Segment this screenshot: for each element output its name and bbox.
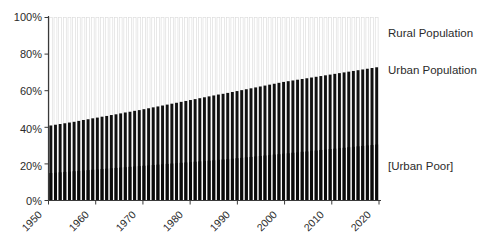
bar-urban-poor — [208, 161, 211, 201]
bar-urban-poor — [198, 161, 201, 200]
bar-urban-poor — [324, 150, 327, 201]
bar-urban-poor — [101, 169, 104, 200]
bar-urban-poor — [180, 163, 183, 201]
bar-urban-poor — [82, 170, 85, 200]
bar-urban-poor — [254, 156, 257, 200]
bar-urban-poor — [319, 150, 322, 201]
bar-urban-poor — [371, 145, 374, 200]
bar-urban-poor — [273, 155, 276, 201]
bar-urban-poor — [77, 171, 80, 201]
bar-urban-poor — [115, 168, 118, 201]
bar-urban-poor — [301, 152, 304, 201]
bar-urban-poor — [226, 159, 229, 200]
bar-urban-poor — [59, 172, 62, 200]
bar-urban-poor — [240, 158, 243, 201]
bar-urban-poor — [175, 163, 178, 200]
bar-urban-poor — [124, 167, 127, 200]
bar-urban-poor — [203, 161, 206, 201]
bar-urban-poor — [87, 170, 90, 200]
bar-urban-poor — [142, 166, 145, 201]
bar-urban-poor — [170, 164, 173, 201]
bar-urban-poor — [333, 149, 336, 201]
bar-urban-poor — [343, 148, 346, 201]
bar-urban-poor — [156, 165, 159, 201]
bar-urban-poor — [110, 168, 113, 200]
bar-urban-poor — [250, 157, 253, 201]
bar-urban-poor — [68, 172, 71, 201]
bar-urban-poor — [73, 171, 76, 200]
bar-urban-poor — [119, 168, 122, 201]
bar-urban-poor — [245, 157, 248, 200]
bar-urban-poor — [129, 167, 132, 201]
bar-urban-poor — [366, 145, 369, 200]
bar-urban-poor — [231, 159, 234, 201]
bar-urban-poor — [96, 169, 99, 200]
bar-urban-poor — [291, 153, 294, 201]
bar-urban-poor — [236, 158, 239, 200]
chart-figure: 100% 80% 60% 40% 20% 0% 1950 1960 1970 1… — [0, 0, 497, 248]
bar-urban-poor — [315, 151, 318, 201]
bar-urban-poor — [217, 160, 220, 201]
bar-urban-poor — [222, 160, 225, 201]
bar-urban-poor — [375, 145, 378, 201]
bar-urban-poor — [361, 146, 364, 201]
bar-urban-poor — [212, 160, 215, 200]
bar-urban-poor — [282, 154, 285, 201]
bar-urban-poor — [264, 155, 267, 200]
bar-urban-poor — [338, 148, 341, 200]
bar-urban-poor — [277, 154, 280, 200]
bar-urban-poor — [259, 156, 262, 200]
bar-urban-poor — [268, 155, 271, 200]
legend-label-urban-poor: [Urban Poor] — [388, 161, 453, 173]
bar-urban-poor — [152, 165, 155, 201]
bar-urban-poor — [63, 172, 66, 201]
bar-urban-poor — [189, 162, 192, 200]
bar-urban-poor — [147, 165, 150, 200]
bar-urban-poor — [54, 173, 57, 201]
bar-urban-poor — [161, 164, 164, 200]
legend-label-rural-population: Rural Population — [388, 28, 473, 40]
bar-urban-poor — [287, 153, 290, 200]
bar-urban-poor — [91, 170, 94, 201]
bar-urban-poor — [133, 166, 136, 200]
bar-urban-poor — [105, 169, 108, 201]
bar-urban-poor — [184, 162, 187, 200]
bar-urban-poor — [194, 162, 197, 201]
bar-urban-poor — [296, 152, 299, 200]
bar-urban-poor — [347, 147, 350, 200]
bar-urban-poor — [49, 173, 52, 200]
legend-label-urban-population: Urban Population — [388, 65, 477, 77]
bar-urban-poor — [166, 164, 169, 201]
bar-urban-poor — [138, 166, 141, 200]
bar-urban-poor — [310, 151, 313, 201]
bar-urban-poor — [352, 147, 355, 201]
bar-urban-poor — [305, 151, 308, 200]
bar-urban-poor — [357, 146, 360, 200]
bar-urban-poor — [329, 149, 332, 200]
